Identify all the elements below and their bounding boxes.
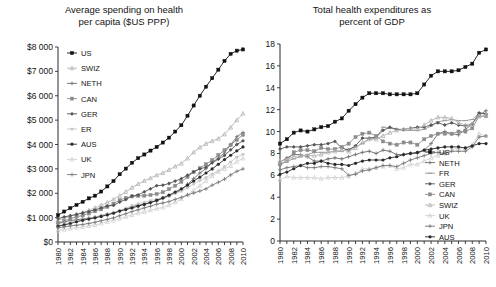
series-point-us <box>354 103 357 106</box>
series-point-neth <box>367 149 371 153</box>
series-point-can <box>347 142 350 145</box>
x-tick-label: 2004 <box>202 248 211 265</box>
series-point-us <box>167 136 170 139</box>
series-point-us <box>464 65 467 68</box>
series-point-aus <box>285 170 288 173</box>
series-point-us <box>211 77 214 80</box>
series-point-us <box>93 194 96 197</box>
series-point-neth <box>374 151 378 155</box>
series-point-neth <box>347 155 351 159</box>
series-point-jpn <box>75 223 79 227</box>
series-point-can <box>278 163 281 166</box>
series-point-us <box>326 124 329 127</box>
series-point-aus <box>112 212 115 215</box>
series-point-aus <box>161 196 164 199</box>
series-point-us <box>143 153 146 156</box>
series-point-can <box>436 132 439 135</box>
series-point-us <box>149 149 152 152</box>
series-point-can <box>299 149 302 152</box>
series-point-jpn <box>408 158 412 162</box>
series-point-us <box>423 83 426 86</box>
legend-label-uk: UK <box>81 155 92 164</box>
series-point-us <box>124 167 127 170</box>
x-tick-label: 2008 <box>227 248 236 265</box>
series-point-ger <box>326 142 330 146</box>
series-point-aus <box>388 156 391 159</box>
legend-label-fr: FR <box>439 169 450 178</box>
series-point-neth <box>360 150 364 154</box>
legend-glyph-neth-marker <box>70 81 74 85</box>
series-point-us <box>395 93 398 96</box>
legend-label-aus: AUS <box>81 140 97 149</box>
series-point-aus <box>320 160 323 163</box>
series-point-aus <box>361 160 364 163</box>
series-point-can <box>388 142 391 145</box>
x-tick-label: 2010 <box>239 248 248 265</box>
series-point-us <box>416 92 419 95</box>
series-point-us <box>388 93 391 96</box>
series-point-er <box>198 179 201 182</box>
series-point-us <box>381 92 384 95</box>
series-point-neth <box>388 149 392 153</box>
series-point-jpn <box>235 169 239 173</box>
x-tick-label: 2008 <box>468 247 477 264</box>
series-point-aus <box>192 179 195 182</box>
x-tick-label: 1998 <box>165 248 174 265</box>
chart-svg-gdp: 0246810121416181980198219841986198819901… <box>248 0 496 287</box>
series-point-us <box>204 85 207 88</box>
series-point-can <box>402 141 405 144</box>
series-point-us <box>130 161 133 164</box>
series-point-can <box>56 221 59 224</box>
series-point-jpn <box>354 172 358 176</box>
series-point-can <box>217 153 220 156</box>
legend-glyph-us-marker <box>428 150 431 153</box>
series-point-us <box>174 130 177 133</box>
series-point-us <box>471 62 474 65</box>
y-tick-label: $6 000 <box>27 91 53 101</box>
series-point-aus <box>278 173 281 176</box>
chart-panel-gdp: Total health expenditures as percent of … <box>248 0 496 287</box>
legend-label-neth: NETH <box>81 79 102 88</box>
series-point-us <box>484 48 487 51</box>
legend-label-neth: NETH <box>439 159 460 168</box>
series-point-can <box>361 132 364 135</box>
series-point-ger <box>241 139 245 143</box>
series-point-can <box>161 191 164 194</box>
series-point-jpn <box>278 168 282 172</box>
y-tick-label: 14 <box>266 83 276 93</box>
series-point-jpn <box>312 166 316 170</box>
legend-label-ger: GER <box>81 110 98 119</box>
series-point-jpn <box>167 200 171 204</box>
x-tick-label: 2010 <box>482 247 491 264</box>
series-point-can <box>229 143 232 146</box>
x-tick-label: 1982 <box>290 247 299 264</box>
series-point-aus <box>484 142 487 145</box>
series-point-jpn <box>198 189 202 193</box>
x-tick-label: 1990 <box>345 247 354 264</box>
series-point-jpn <box>422 154 426 158</box>
series-point-aus <box>100 215 103 218</box>
series-point-aus <box>186 184 189 187</box>
series-point-jpn <box>161 201 165 205</box>
legend-glyph-ger-marker <box>70 112 74 116</box>
x-tick-label: 2004 <box>441 247 450 264</box>
x-tick-label: 1996 <box>386 247 395 264</box>
series-point-jpn <box>130 210 134 214</box>
series-point-aus <box>235 149 238 152</box>
series-point-aus <box>457 145 460 148</box>
legend-label-jpn: JPN <box>439 222 453 231</box>
series-point-ger <box>312 143 316 147</box>
series-point-can <box>174 184 177 187</box>
series-point-ger <box>179 177 183 181</box>
series-point-aus <box>464 146 467 149</box>
legend-label-jpn: JPN <box>81 171 95 180</box>
series-point-jpn <box>118 214 122 218</box>
series-point-aus <box>450 145 453 148</box>
series-point-ger <box>299 145 303 149</box>
legend-glyph-jpn-marker <box>70 173 74 177</box>
series-point-aus <box>416 151 419 154</box>
x-tick-label: 1986 <box>317 247 326 264</box>
series-point-aus <box>368 158 371 161</box>
series-point-can <box>235 138 238 141</box>
series-point-can <box>450 132 453 135</box>
